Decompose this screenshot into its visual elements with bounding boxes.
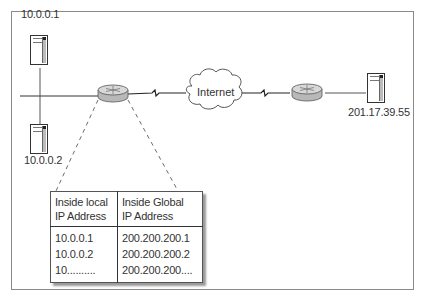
serial-link-right <box>242 90 290 96</box>
server-icon <box>30 124 48 154</box>
cloud-label: Internet <box>197 86 234 98</box>
header-line: Inside Global <box>122 195 198 209</box>
table-header-cell: Inside local IP Address <box>51 192 118 227</box>
router-icon <box>98 85 128 102</box>
host-label: 10.0.0.1 <box>21 8 59 20</box>
nat-translation-table: Inside local IP Address Inside Global IP… <box>50 191 203 283</box>
header-line: IP Address <box>55 209 113 223</box>
host-label: 201.17.39.55 <box>348 106 410 118</box>
table-header-row: Inside local IP Address Inside Global IP… <box>51 192 203 227</box>
callout-line-left <box>56 100 98 191</box>
table-cell: 10.0.0.2 <box>51 246 118 262</box>
table-row: 10.0.0.2 200.200.200.2 <box>51 246 203 262</box>
callout-line-right <box>128 100 178 191</box>
server-icon <box>367 73 385 103</box>
server-icon <box>30 35 48 65</box>
table-cell: 10.......... <box>51 262 118 283</box>
serial-link-left <box>128 90 186 96</box>
table-header-cell: Inside Global IP Address <box>118 192 203 227</box>
header-line: Inside local <box>55 195 113 209</box>
table-row: 10.......... 200.200.200.... <box>51 262 203 283</box>
host-label: 10.0.0.2 <box>24 154 62 166</box>
table-row: 10.0.0.1 200.200.200.1 <box>51 227 203 247</box>
table-cell: 200.200.200.1 <box>118 227 203 247</box>
table-cell: 10.0.0.1 <box>51 227 118 247</box>
table-cell: 200.200.200.2 <box>118 246 203 262</box>
table-cell: 200.200.200.... <box>118 262 203 283</box>
router-icon <box>292 84 322 101</box>
header-line: IP Address <box>122 209 198 223</box>
